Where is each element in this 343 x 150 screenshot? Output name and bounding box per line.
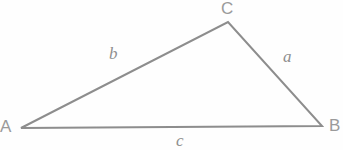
triangle-diagram: A B C a b c — [0, 0, 343, 150]
vertex-label-b: B — [329, 117, 340, 134]
vertex-label-a: A — [0, 118, 11, 135]
side-label-a: a — [283, 48, 292, 65]
triangle-path — [21, 22, 322, 128]
side-label-b: b — [109, 45, 118, 62]
vertex-label-c: C — [221, 0, 233, 17]
triangle-outline — [0, 0, 343, 150]
side-label-c: c — [176, 132, 184, 149]
